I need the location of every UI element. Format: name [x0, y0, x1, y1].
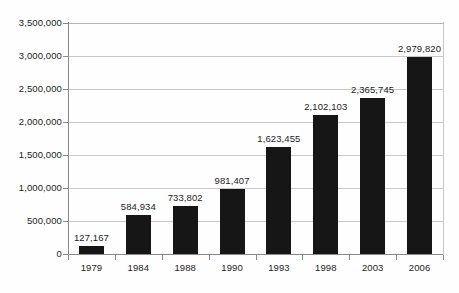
- bar-value-label: 733,802: [145, 192, 225, 203]
- bar-chart: 0500,0001,000,0001,500,0002,000,0002,500…: [0, 0, 459, 293]
- y-axis-tick-label: 0: [57, 248, 62, 259]
- y-axis-tick-label: 1,500,000: [19, 149, 62, 160]
- plot-right-border: [443, 22, 444, 255]
- x-axis-tick: [209, 255, 210, 260]
- bar: [266, 147, 291, 254]
- x-axis-tick: [162, 255, 163, 260]
- y-axis-tick-label: 3,500,000: [19, 17, 62, 28]
- x-axis-tick: [396, 255, 397, 260]
- y-axis-tick-label: 2,000,000: [19, 116, 62, 127]
- y-axis-tick-label: 3,000,000: [19, 50, 62, 61]
- x-axis-tick: [68, 255, 69, 260]
- y-axis-tick-label: 2,500,000: [19, 83, 62, 94]
- bar: [79, 246, 104, 254]
- bar-value-label: 584,934: [98, 201, 178, 212]
- bar-value-label: 981,407: [192, 175, 272, 186]
- bar: [173, 206, 198, 254]
- x-axis-category-label: 2006: [390, 262, 450, 273]
- bar-value-label: 2,979,820: [380, 43, 459, 54]
- bar-value-label: 2,102,103: [286, 101, 366, 112]
- bar-value-label: 127,167: [51, 232, 131, 243]
- bar: [360, 98, 385, 254]
- y-axis-tick-label: 500,000: [27, 215, 62, 226]
- x-axis-tick: [256, 255, 257, 260]
- x-axis-tick: [443, 255, 444, 260]
- bar-value-label: 2,365,745: [333, 84, 413, 95]
- x-axis-tick: [302, 255, 303, 260]
- x-axis-tick: [349, 255, 350, 260]
- bar-value-label: 1,623,455: [239, 133, 319, 144]
- x-axis-tick: [115, 255, 116, 260]
- y-axis-tick-label: 1,000,000: [19, 182, 62, 193]
